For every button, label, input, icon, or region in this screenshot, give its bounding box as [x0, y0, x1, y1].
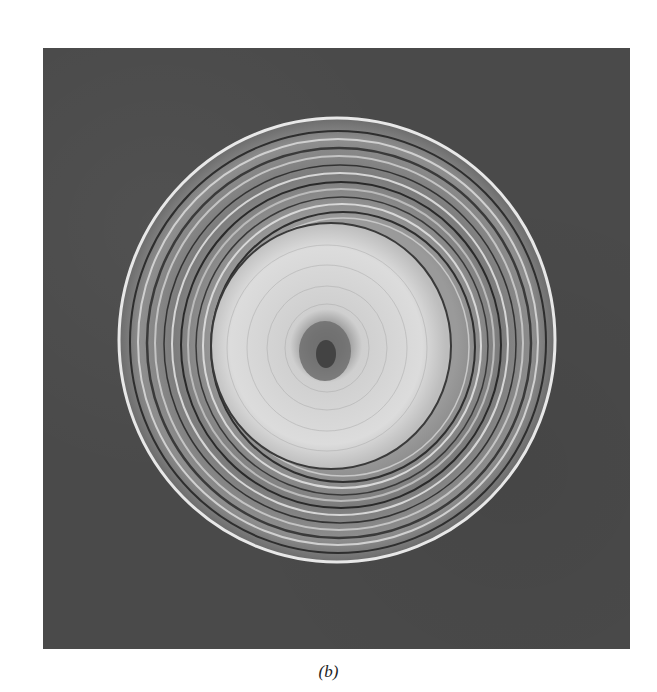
specimen-rings-graphic: [117, 116, 558, 564]
micrograph-panel: [43, 48, 630, 649]
figure-caption: (b): [0, 662, 657, 682]
cross-section-specimen: [117, 116, 558, 564]
